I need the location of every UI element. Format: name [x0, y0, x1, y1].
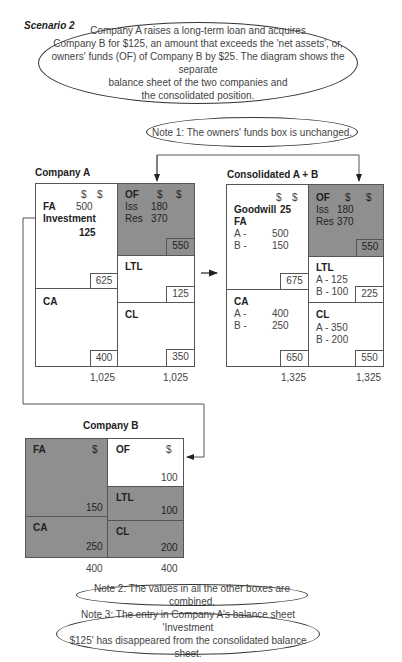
iss-label: Iss: [125, 201, 138, 213]
ca-a-value: 400: [272, 308, 289, 320]
right-total: 400: [161, 563, 178, 575]
res-label: Res: [316, 216, 334, 228]
left-total: 400: [86, 563, 103, 575]
intro-line: owners' funds (OF) of Company B by $25. …: [39, 50, 357, 76]
fa-value: 500: [76, 201, 93, 213]
fa-label: FA: [33, 444, 46, 456]
currency-label: $: [276, 192, 282, 204]
company-b-title: Company B: [83, 420, 139, 432]
note-3-line: $125' has disappeared from the consolida…: [57, 634, 319, 660]
of-label: OF: [116, 444, 130, 456]
ltl-b-value: B - 100: [316, 286, 348, 298]
note-3-callout: Note 3: The entry in Company A's balance…: [56, 613, 320, 655]
of-label: OF: [125, 189, 139, 201]
intro-line: Company A raises a long-term loan and ac…: [39, 24, 357, 37]
cl-label: CL: [116, 526, 129, 538]
ltl-label: LTL: [125, 261, 143, 273]
currency-label: $: [81, 189, 87, 201]
goodwill-value: 25: [280, 204, 291, 216]
intro-callout: Company A raises a long-term loan and ac…: [38, 22, 358, 104]
fa-label: FA: [234, 216, 247, 228]
intro-line: the consolidated position.: [39, 89, 357, 102]
cl-label: CL: [125, 309, 138, 321]
right-total: 1,325: [356, 372, 381, 384]
currency-label: $: [97, 189, 103, 201]
intro-line: Company B for $125, an amount that excee…: [39, 37, 357, 50]
cl-total: 550: [355, 350, 384, 367]
of-label: OF: [316, 192, 330, 204]
ca-label: CA: [43, 296, 57, 308]
fa-a-label: A -: [234, 228, 246, 240]
ltl-total: 100: [161, 505, 178, 517]
fa-b-label: B -: [234, 240, 247, 252]
ca-total: 250: [86, 541, 103, 553]
note-1-text: Note 1: The owners' funds box is unchang…: [152, 126, 352, 139]
note-1-callout: Note 1: The owners' funds box is unchang…: [146, 117, 358, 147]
ltl-total: 125: [166, 286, 195, 303]
ca-b-value: 250: [272, 320, 289, 332]
consolidated-title: Consolidated A + B: [227, 169, 318, 181]
res-value: 370: [337, 216, 354, 228]
currency-label: $: [292, 192, 298, 204]
cl-b-value: B - 200: [316, 334, 348, 346]
ca-label: CA: [234, 296, 248, 308]
investment-value: 125: [79, 227, 96, 239]
fa-total: 625: [90, 273, 118, 289]
right-total: 1,025: [163, 372, 188, 384]
ltl-label: LTL: [316, 262, 334, 274]
note-3-line: Note 3: The entry in Company A's balance…: [57, 608, 319, 634]
intro-line: balance sheet of the two companies and: [39, 76, 357, 89]
ltl-label: LTL: [116, 492, 134, 504]
fa-label: FA: [43, 201, 56, 213]
of-total: 550: [356, 239, 384, 257]
note-2-callout: Note 2: The values in all the other boxe…: [76, 584, 308, 606]
ca-total: 650: [280, 350, 309, 367]
cl-label: CL: [316, 309, 329, 321]
ltl-total: 225: [355, 286, 384, 303]
res-value: 370: [151, 213, 168, 225]
res-label: Res: [125, 213, 143, 225]
goodwill-label: Goodwill: [234, 204, 276, 216]
ca-label: CA: [33, 522, 47, 534]
left-total: 1,325: [281, 372, 306, 384]
of-total: 550: [166, 238, 195, 256]
iss-value: 180: [151, 201, 168, 213]
note-2-text: Note 2: The values in all the other boxe…: [77, 582, 307, 608]
ltl-a-value: A - 125: [316, 274, 348, 286]
iss-label: Iss: [316, 204, 329, 216]
currency-label: $: [157, 189, 163, 201]
iss-value: 180: [337, 204, 354, 216]
currency-label: $: [166, 444, 172, 456]
ca-b-label: B -: [234, 320, 247, 332]
currency-label: $: [176, 189, 182, 201]
of-total: 100: [161, 472, 178, 484]
currency-label: $: [345, 192, 351, 204]
currency-label: $: [92, 444, 98, 456]
left-total: 1,025: [90, 372, 115, 384]
cl-total: 350: [166, 349, 195, 367]
currency-label: $: [366, 192, 372, 204]
fa-b-value: 150: [272, 240, 289, 252]
ca-a-label: A -: [234, 308, 246, 320]
investment-label: Investment: [43, 213, 96, 225]
fa-a-value: 500: [272, 228, 289, 240]
company-a-title: Company A: [35, 167, 90, 179]
ca-total: 400: [90, 350, 118, 367]
fa-total: 150: [86, 502, 103, 514]
cl-a-value: A - 350: [316, 322, 348, 334]
cl-total: 200: [161, 542, 178, 554]
fa-total: 675: [280, 273, 309, 290]
